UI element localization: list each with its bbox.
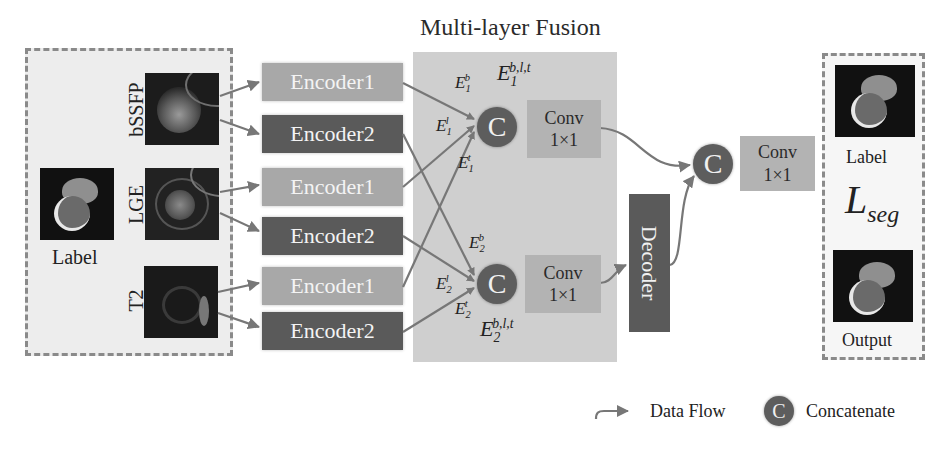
- output-segmentation-image: [833, 250, 913, 322]
- legend-concat-icon: C: [764, 396, 794, 426]
- decoder-label: Decoder: [637, 226, 663, 301]
- e2-l-label: E2l: [436, 273, 449, 295]
- conv-1x1-branch1: Conv 1×1: [527, 100, 601, 158]
- legend-concatenate: Concatenate: [806, 401, 895, 422]
- e2-combined-label: E2b,l,t: [480, 316, 513, 346]
- e1-combined-label: E1b,l,t: [497, 60, 530, 90]
- legend-data-flow: Data Flow: [650, 401, 726, 422]
- conv-kernel-label: 1×1: [549, 284, 577, 307]
- e2-b-label: E2b: [469, 232, 484, 254]
- conv-kernel-label: 1×1: [550, 129, 578, 152]
- conv-label: Conv: [544, 107, 583, 130]
- decoder-block: Decoder: [629, 194, 670, 332]
- output-label-caption: Label: [846, 147, 887, 168]
- e1-t-label: E1t: [458, 152, 471, 174]
- concat-node-final: C: [693, 144, 733, 184]
- concat-node-1: C: [477, 107, 517, 147]
- e1-b-label: E1b: [455, 72, 470, 94]
- conv-label: Conv: [543, 262, 582, 285]
- label-image-output: [835, 65, 915, 137]
- data-flow-arrows: [0, 0, 950, 450]
- loss-seg-label: Lseg: [845, 180, 899, 226]
- conv-kernel-label: 1×1: [763, 164, 791, 187]
- conv-1x1-final: Conv 1×1: [740, 136, 815, 191]
- concat-node-2: C: [477, 264, 517, 304]
- e1-l-label: E1l: [436, 115, 449, 137]
- conv-label: Conv: [758, 141, 797, 164]
- output-caption: Output: [842, 330, 892, 351]
- e2-t-label: E2t: [455, 298, 468, 320]
- conv-1x1-branch2: Conv 1×1: [525, 255, 601, 313]
